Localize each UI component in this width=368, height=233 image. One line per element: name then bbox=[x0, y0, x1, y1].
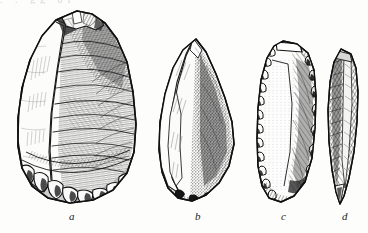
stone-tool-illustration bbox=[0, 0, 368, 233]
cut-off-text-above: . . gg of bbox=[0, 0, 368, 4]
figure-plate: . . gg of bbox=[0, 0, 368, 233]
